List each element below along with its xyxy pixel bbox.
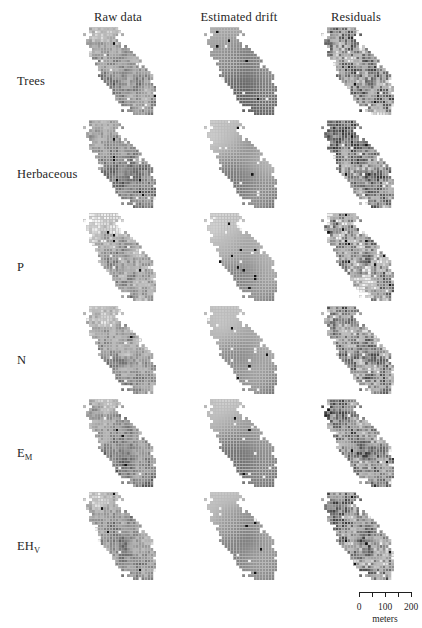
map-canvas [318,492,394,580]
map-n-drift [201,306,277,394]
map-canvas [201,306,277,394]
map-p-raw [80,213,156,301]
row-label-text: Herbaceous [17,167,78,181]
map-canvas [318,213,394,301]
map-trees-residual [318,27,394,115]
map-n-residual [318,306,394,394]
row-label-em: EM [17,446,32,461]
row-label-subscript: V [34,545,40,555]
map-canvas [80,399,156,487]
row-label-text: EH [17,539,34,553]
scale-bar-tick [385,592,386,597]
map-canvas [318,399,394,487]
scale-bar-tick-labels: 0 100 200 [352,602,418,613]
row-label-text: E [17,446,25,460]
scale-bar-tick [411,592,412,597]
scale-bar-tick [359,592,360,597]
scale-bar-units: meters [352,614,418,624]
map-n-raw [80,306,156,394]
map-canvas [80,306,156,394]
map-canvas [318,120,394,208]
row-label-p: P [17,260,24,275]
map-herbaceous-residual [318,120,394,208]
row-label-subscript: M [25,452,33,462]
column-header-raw-data: Raw data [94,10,142,25]
map-canvas [318,306,394,394]
map-canvas [201,27,277,115]
column-header-estimated-drift: Estimated drift [201,10,278,25]
scale-bar: 0 100 200 meters [352,592,418,624]
map-canvas [201,120,277,208]
map-herbaceous-drift [201,120,277,208]
row-label-ehv: EHV [17,539,40,554]
row-label-text: N [17,353,26,367]
row-label-text: Trees [17,74,45,88]
map-ehv-drift [201,492,277,580]
map-trees-drift [201,27,277,115]
map-ehv-residual [318,492,394,580]
map-canvas [80,492,156,580]
map-canvas [201,492,277,580]
column-header-residuals: Residuals [331,10,381,25]
scale-bar-tick [398,592,399,597]
row-label-trees: Trees [17,74,45,89]
map-canvas [80,213,156,301]
map-p-residual [318,213,394,301]
map-trees-raw [80,27,156,115]
map-em-residual [318,399,394,487]
map-canvas [80,27,156,115]
scale-tick-200: 200 [404,602,418,612]
map-canvas [201,213,277,301]
scale-tick-100: 100 [378,602,392,612]
row-label-herbaceous: Herbaceous [17,167,78,182]
scale-bar-graphic [359,592,411,601]
map-herbaceous-raw [80,120,156,208]
scale-tick-0: 0 [357,602,362,612]
map-canvas [201,399,277,487]
map-canvas [80,120,156,208]
map-p-drift [201,213,277,301]
map-em-drift [201,399,277,487]
figure-panel: Raw data Estimated drift Residuals Trees… [0,0,422,628]
map-canvas [318,27,394,115]
row-label-n: N [17,353,26,368]
row-label-text: P [17,260,24,274]
map-ehv-raw [80,492,156,580]
map-em-raw [80,399,156,487]
scale-bar-tick [372,592,373,597]
